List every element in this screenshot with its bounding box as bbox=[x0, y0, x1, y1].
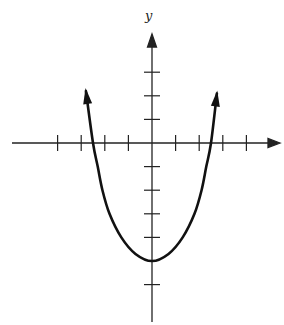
x-axis bbox=[12, 139, 280, 148]
y-axis-label: y bbox=[145, 8, 152, 23]
x-axis-arrow-icon bbox=[268, 139, 280, 148]
curve-left-arrow-icon bbox=[83, 88, 92, 104]
curve-right-arrow-icon bbox=[211, 90, 220, 106]
y-axis bbox=[148, 34, 157, 322]
y-axis-arrow-icon bbox=[148, 34, 157, 47]
graph-canvas bbox=[0, 0, 284, 325]
